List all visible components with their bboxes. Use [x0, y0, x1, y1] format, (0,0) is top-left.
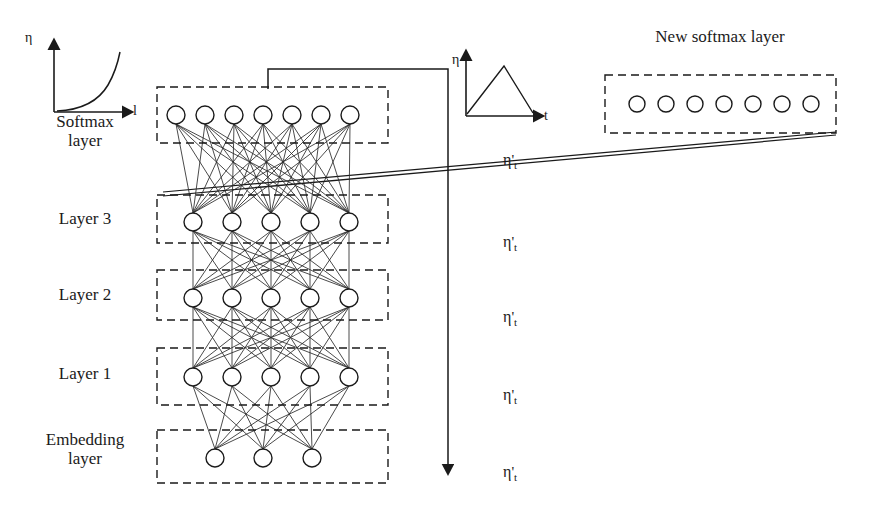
node-layer-3-0 [184, 213, 202, 231]
node-softmax-layer-0 [167, 106, 185, 124]
right-lr-chart [466, 55, 539, 116]
subscript-glyph: t [514, 471, 517, 483]
subscript-glyph: t [514, 159, 517, 171]
edge [312, 386, 349, 449]
edge [176, 124, 310, 213]
node-layer-1-4 [340, 368, 358, 386]
new-softmax-layer-title: New softmax layer [600, 27, 840, 46]
node-softmax-layer-4 [283, 106, 301, 124]
eta-label-layer2: η't [487, 290, 517, 346]
node-new-softmax-5 [774, 96, 790, 112]
node-layer-1-2 [262, 368, 280, 386]
label-layer-2: Layer 2 [20, 285, 150, 304]
label-layer-1: Layer 1 [20, 364, 150, 383]
node-embedding-layer-2 [303, 449, 321, 467]
exponential-curve [57, 52, 120, 111]
edge [215, 386, 349, 449]
node-softmax-layer-6 [341, 106, 359, 124]
triangular-curve [467, 66, 533, 114]
node-softmax-layer-5 [312, 106, 330, 124]
node-layer-3-4 [340, 213, 358, 231]
eta-label-embedding: η't [487, 445, 517, 501]
node-layer-2-1 [223, 289, 241, 307]
subscript-glyph: t [514, 316, 517, 328]
edge [271, 124, 292, 213]
edge [205, 124, 310, 213]
node-layer-2-4 [340, 289, 358, 307]
node-new-softmax-4 [745, 96, 761, 112]
label-softmax-layer: Softmaxlayer [20, 112, 150, 150]
label-embedding-layer: Embeddinglayer [20, 430, 150, 468]
node-new-softmax-0 [629, 96, 645, 112]
network-edges [176, 124, 350, 449]
node-layer-1-0 [184, 368, 202, 386]
edge [232, 386, 312, 449]
subscript-glyph: t [514, 241, 517, 253]
edge [292, 124, 349, 213]
node-new-softmax-6 [803, 96, 819, 112]
right-chart-xlabel: t [544, 108, 548, 124]
node-new-softmax-3 [716, 96, 732, 112]
eta-label-layer1: η't [487, 368, 517, 424]
left-lr-chart [54, 44, 128, 112]
node-softmax-layer-2 [225, 106, 243, 124]
edge [205, 124, 271, 213]
edge [176, 124, 349, 213]
node-new-softmax-2 [687, 96, 703, 112]
new-softmax-layer-group[interactable] [605, 75, 836, 133]
edge [310, 124, 321, 213]
eta-label-layer3: η't [487, 215, 517, 271]
left-chart-ylabel: η [25, 30, 32, 46]
edge [321, 124, 349, 213]
edge [310, 124, 350, 213]
node-layer-3-1 [223, 213, 241, 231]
node-embedding-layer-1 [254, 449, 272, 467]
right-chart-ylabel: η [452, 52, 459, 68]
edge [232, 124, 263, 213]
node-layer-2-0 [184, 289, 202, 307]
node-layer-3-3 [301, 213, 319, 231]
edge [310, 386, 312, 449]
subscript-glyph: t [514, 394, 517, 406]
edge [232, 386, 263, 449]
eta-label-softmax: η't [487, 133, 517, 189]
node-softmax-layer-1 [196, 106, 214, 124]
node-softmax-layer-3 [254, 106, 272, 124]
node-layer-1-1 [223, 368, 241, 386]
edge [232, 124, 234, 213]
node-layer-3-2 [262, 213, 280, 231]
label-layer-3: Layer 3 [20, 209, 150, 228]
edge [271, 124, 321, 213]
layer-boxes [157, 87, 388, 483]
node-new-softmax-1 [658, 96, 674, 112]
node-layer-2-3 [301, 289, 319, 307]
edge [349, 124, 350, 213]
node-layer-1-3 [301, 368, 319, 386]
node-layer-2-2 [262, 289, 280, 307]
figure-canvas: η l η t New softmax layer Softmaxlayer L… [0, 0, 874, 513]
node-embedding-layer-0 [206, 449, 224, 467]
